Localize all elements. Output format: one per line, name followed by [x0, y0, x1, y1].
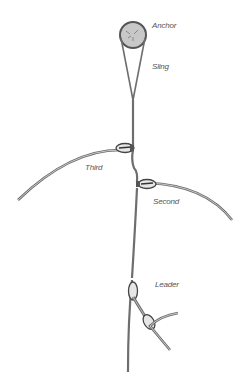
anchor-icon [120, 22, 146, 48]
label-second: Second [153, 197, 179, 206]
third-rope [18, 150, 120, 200]
label-sling: Sling [152, 62, 169, 71]
main-rope [128, 100, 137, 372]
label-anchor: Anchor [152, 21, 176, 30]
leader-rope [150, 313, 178, 350]
label-leader: Leader [155, 280, 179, 289]
rope-diagram [0, 0, 247, 386]
third-carabiner-icon [116, 144, 134, 153]
second-carabiner-icon [136, 180, 156, 189]
label-third: Third [85, 163, 102, 172]
